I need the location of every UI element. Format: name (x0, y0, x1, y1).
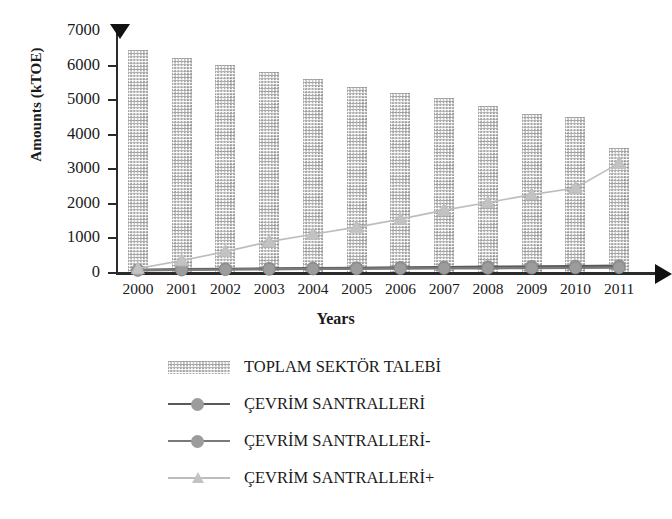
circle-marker-icon (351, 263, 363, 275)
x-tick-label: 2000 (122, 280, 153, 298)
y-axis-tick-labels: 01000200030004000500060007000 (38, 24, 100, 276)
circle-marker-icon (191, 435, 204, 448)
x-tick-label: 2007 (429, 280, 460, 298)
x-tick-label: 2008 (472, 280, 503, 298)
x-tick-label: 2006 (385, 280, 416, 298)
plot-area: Amounts (kTOE) 0100020003000400050006000… (0, 0, 671, 300)
x-tick-label: 2001 (166, 280, 197, 298)
x-tick-label: 2009 (516, 280, 547, 298)
circle-marker-icon (263, 263, 275, 275)
legend-item[interactable]: ÇEVRİM SANTRALLERİ+ (0, 459, 671, 496)
y-tick-label: 6000 (67, 56, 100, 73)
legend-label: TOPLAM SEKTÖR TALEBİ (244, 357, 441, 377)
circle-marker-icon (613, 262, 625, 274)
x-axis-title: Years (0, 310, 671, 328)
legend-label: ÇEVRİM SANTRALLERİ (244, 394, 425, 414)
circle-marker-icon (307, 263, 319, 275)
x-tick-label: 2005 (341, 280, 372, 298)
circle-marker-icon (526, 262, 538, 274)
triangle-marker-icon (569, 181, 582, 193)
x-tick-label: 2011 (604, 280, 634, 298)
line-circle-marker-icon (168, 396, 230, 412)
circle-marker-icon (394, 263, 406, 275)
legend-label: ÇEVRİM SANTRALLERİ+ (244, 468, 434, 488)
x-tick-label: 2002 (210, 280, 241, 298)
circle-marker-icon (191, 398, 204, 411)
y-tick-label: 3000 (67, 160, 100, 177)
circle-marker-icon (569, 262, 581, 274)
y-tick-label: 5000 (67, 91, 100, 108)
legend-item[interactable]: ÇEVRİM SANTRALLERİ- (0, 422, 671, 459)
circle-marker-icon (438, 262, 450, 274)
legend-label: ÇEVRİM SANTRALLERİ- (244, 431, 431, 451)
circle-marker-icon (219, 264, 231, 276)
y-tick-label: 2000 (67, 195, 100, 212)
line-triangle-marker-icon (168, 470, 230, 486)
line-circle-marker-icon (168, 433, 230, 449)
y-tick-label: 1000 (67, 229, 100, 246)
pattern-swatch-icon (168, 359, 230, 375)
chart-legend: TOPLAM SEKTÖR TALEBİÇEVRİM SANTRALLERİÇE… (0, 348, 671, 496)
line-path (138, 163, 619, 268)
pattern-swatch (168, 361, 230, 374)
triangle-marker-icon (613, 157, 626, 169)
y-tick-label: 7000 (67, 22, 100, 39)
legend-item[interactable]: ÇEVRİM SANTRALLERİ (0, 385, 671, 422)
legend-item[interactable]: TOPLAM SEKTÖR TALEBİ (0, 348, 671, 385)
x-tick-label: 2010 (560, 280, 591, 298)
y-tick-label: 4000 (67, 125, 100, 142)
triangle-marker-icon (192, 472, 204, 483)
x-tick-label: 2003 (254, 280, 285, 298)
y-tick-label: 0 (92, 264, 100, 281)
circle-marker-icon (482, 262, 494, 274)
x-tick-label: 2004 (297, 280, 328, 298)
line-series-group (116, 30, 655, 276)
x-axis-tick-labels: 2000200120022003200420052006200720082009… (0, 280, 671, 304)
